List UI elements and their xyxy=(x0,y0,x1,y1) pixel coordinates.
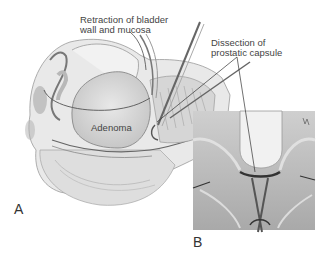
panel-b-drawing xyxy=(193,111,315,232)
panel-letter-a: A xyxy=(14,201,23,217)
label-dissection: Dissection of prostatic capsule xyxy=(211,38,282,58)
label-adenoma: Adenoma xyxy=(91,123,132,133)
panel-letter-b: B xyxy=(193,234,202,250)
label-retraction: Retraction of bladder wall and mucosa xyxy=(80,15,168,35)
